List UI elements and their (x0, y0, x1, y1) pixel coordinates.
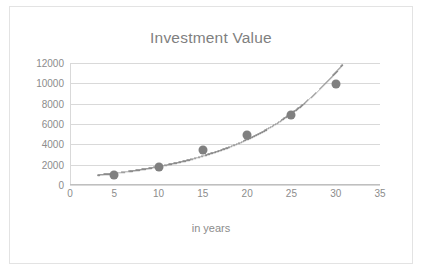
gridline (70, 63, 380, 64)
x-tick-label: 25 (286, 188, 297, 199)
data-point (110, 170, 119, 179)
x-tick-label: 0 (67, 188, 73, 199)
plot-area (70, 63, 380, 185)
y-tick-label: 2000 (42, 159, 64, 170)
x-tick-label: 15 (197, 188, 208, 199)
gridline (70, 165, 380, 166)
gridline (70, 185, 380, 186)
x-axis-title: in years (10, 222, 412, 234)
x-tick-label: 35 (374, 188, 385, 199)
gridline (70, 104, 380, 105)
data-point (243, 131, 252, 140)
y-tick-label: 4000 (42, 139, 64, 150)
y-tick-label: 0 (58, 180, 64, 191)
y-axis-tick-labels: 020004000600080001000012000 (24, 63, 64, 185)
trendline-dot (341, 64, 343, 66)
x-axis-tick-labels: 05101520253035 (70, 188, 380, 202)
data-point (198, 146, 207, 155)
data-point (331, 80, 340, 89)
x-tick-label: 30 (330, 188, 341, 199)
y-tick-label: 8000 (42, 98, 64, 109)
gridline (70, 124, 380, 125)
x-tick-label: 10 (153, 188, 164, 199)
chart-title: Investment Value (10, 29, 412, 47)
x-tick-label: 20 (242, 188, 253, 199)
x-tick-label: 5 (112, 188, 118, 199)
chart-container: Investment Value 02000400060008000100001… (9, 6, 413, 264)
y-tick-label: 12000 (36, 58, 64, 69)
gridline (70, 144, 380, 145)
y-tick-label: 6000 (42, 119, 64, 130)
data-point (154, 162, 163, 171)
y-tick-label: 10000 (36, 78, 64, 89)
data-point (287, 110, 296, 119)
